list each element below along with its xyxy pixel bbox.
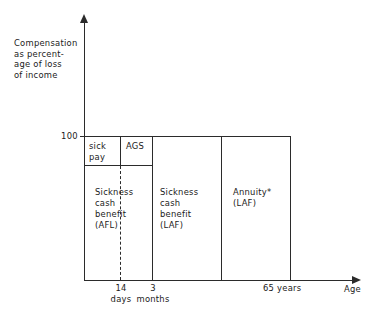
x-axis-tick-label-65-years: 65 years — [263, 283, 319, 294]
compensation-timeline-diagram: Compensation as percent- age of loss of … — [0, 0, 380, 320]
x-axis-title: Age — [344, 284, 361, 294]
x-axis-tick-label-3-months: 3 months — [131, 283, 175, 305]
y-axis-title: Compensation as percent- age of loss of … — [14, 38, 82, 80]
block-label-sick-pay: sick pay — [89, 141, 106, 163]
block-label-annuity-laf: Annuity* (LAF) — [233, 187, 271, 209]
block-label-sickness-cash-benefit-laf: Sickness cash benefit (LAF) — [160, 187, 198, 231]
x-axis-arrow-icon — [352, 276, 361, 284]
divider-14-days-dashed — [120, 166, 121, 280]
block-label-ags: AGS — [126, 141, 144, 152]
block-label-sickness-cash-benefit-afl: Sickness cash benefit (AFL) — [95, 187, 133, 231]
y-axis-tick-label-100: 100 — [61, 131, 78, 141]
y-axis-arrow-icon — [80, 14, 88, 23]
